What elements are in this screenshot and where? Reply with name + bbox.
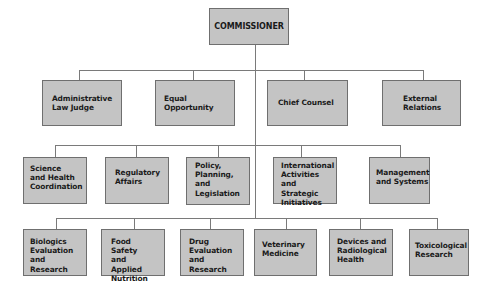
row3-drop xyxy=(360,218,361,229)
node-label: Administrative Law Judge xyxy=(52,94,112,112)
node-commissioner: COMMISSIONER xyxy=(209,8,289,45)
node-label: Toxicological Research xyxy=(415,241,467,259)
node-label: External Relations xyxy=(403,94,441,112)
node-label: Chief Counsel xyxy=(278,98,334,107)
node-equal-opportunity: Equal Opportunity xyxy=(155,80,235,126)
node-label: Veterinary Medicine xyxy=(262,240,305,258)
row2-drop xyxy=(218,145,219,157)
row1-drop xyxy=(79,70,80,80)
node-biologics-evaluation-research: Biologics Evaluation and Research xyxy=(23,229,87,276)
row3-drop xyxy=(210,218,211,229)
row3-drop xyxy=(286,218,287,229)
node-administrative-law-judge: Administrative Law Judge xyxy=(42,80,122,126)
row2-drop xyxy=(136,145,137,157)
node-label: Biologics Evaluation and Research xyxy=(30,237,80,274)
node-label: Equal Opportunity xyxy=(164,94,213,112)
row3-drop xyxy=(437,218,438,229)
row1-drop xyxy=(304,70,305,80)
row2-drop xyxy=(400,145,401,157)
node-chief-counsel: Chief Counsel xyxy=(267,80,348,126)
row3-bus xyxy=(56,218,438,219)
node-label: Devices and Radiological Health xyxy=(337,237,387,265)
node-label: Food Safety and Applied Nutrition xyxy=(111,237,158,283)
row3-drop xyxy=(56,218,57,229)
node-toxicological-research: Toxicological Research xyxy=(409,229,469,276)
row2-bus xyxy=(55,145,401,146)
row1-bus xyxy=(79,70,424,71)
node-external-relations: External Relations xyxy=(382,80,461,126)
row2-drop xyxy=(301,145,302,157)
row1-drop xyxy=(423,70,424,80)
node-devices-radiological-health: Devices and Radiological Health xyxy=(329,229,393,276)
node-label: International Activities and Strategic I… xyxy=(281,161,334,207)
node-label: Regulatory Affairs xyxy=(115,168,160,186)
row1-drop xyxy=(193,70,194,80)
node-international-activities: International Activities and Strategic I… xyxy=(273,157,337,204)
node-label: Management and Systems xyxy=(376,168,429,186)
node-management-systems: Management and Systems xyxy=(369,157,430,204)
node-label: Science and Health Coordination xyxy=(30,164,83,192)
node-label: Policy, Planning, and Legislation xyxy=(195,161,240,198)
row3-drop xyxy=(134,218,135,229)
node-regulatory-affairs: Regulatory Affairs xyxy=(105,157,169,204)
node-label: COMMISSIONER xyxy=(214,22,284,31)
node-science-health-coordination: Science and Health Coordination xyxy=(23,157,87,204)
node-drug-evaluation-research: Drug Evaluation and Research xyxy=(180,229,244,276)
node-label: Drug Evaluation and Research xyxy=(189,237,237,274)
row2-drop xyxy=(55,145,56,157)
node-policy-planning-legislation: Policy, Planning, and Legislation xyxy=(186,157,250,205)
node-veterinary-medicine: Veterinary Medicine xyxy=(254,229,317,276)
node-food-safety-applied-nutrition: Food Safety and Applied Nutrition xyxy=(101,229,165,276)
